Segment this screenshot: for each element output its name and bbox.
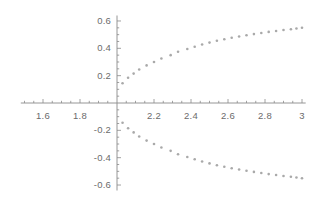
data-point (177, 153, 180, 156)
data-point (160, 146, 163, 149)
data-point (295, 27, 298, 30)
x-axis-tick-label: 2.6 (221, 111, 235, 121)
data-point (145, 64, 148, 67)
y-axis-tick-label: -0.6 (94, 180, 111, 190)
axes-group (21, 16, 306, 191)
data-point (193, 158, 196, 161)
data-point (301, 27, 304, 30)
data-point (208, 162, 211, 165)
data-point (138, 135, 141, 138)
data-point (153, 61, 156, 64)
scatter-plot-figure: 1.61.82.22.42.62.83-0.6-0.4-0.20.20.40.6 (0, 0, 319, 211)
data-point (253, 33, 256, 36)
data-point (267, 31, 270, 34)
data-point (245, 34, 248, 37)
y-axis-tick-label: 0.4 (97, 44, 111, 54)
data-point (230, 36, 233, 39)
y-axis-tick-label: 0.2 (97, 71, 111, 81)
data-point (238, 168, 241, 171)
data-point (238, 35, 241, 38)
x-axis-tick-label: 2.8 (258, 111, 272, 121)
plot-canvas (0, 0, 319, 211)
data-point (201, 160, 204, 163)
data-point (253, 171, 256, 174)
data-point (186, 156, 189, 159)
data-point (230, 167, 233, 170)
data-point (127, 127, 130, 130)
data-point (153, 143, 156, 146)
data-point (121, 82, 124, 85)
data-point (275, 174, 278, 177)
data-point (201, 43, 204, 46)
x-axis-tick-label: 3 (299, 111, 304, 121)
data-point (295, 176, 298, 179)
data-point (208, 41, 211, 44)
data-point (267, 173, 270, 176)
x-axis-tick-label: 2.2 (147, 111, 161, 121)
data-point (169, 54, 172, 57)
data-point (160, 57, 163, 60)
x-axis-tick-label: 1.8 (73, 111, 87, 121)
data-point (223, 165, 226, 168)
y-axis-tick-label: -0.2 (94, 126, 111, 136)
data-point (127, 76, 130, 79)
data-point (186, 48, 189, 51)
y-axis-tick-label: -0.4 (94, 153, 111, 163)
x-axis-tick-label: 1.6 (36, 111, 50, 121)
data-point (193, 45, 196, 48)
data-point (216, 40, 219, 43)
data-point (145, 139, 148, 142)
data-point (275, 30, 278, 33)
data-point (260, 32, 263, 35)
data-point (290, 28, 293, 31)
data-point (260, 172, 263, 175)
y-axis-tick-label: 0.6 (97, 16, 111, 26)
data-point (132, 72, 135, 75)
data-point (282, 29, 285, 32)
data-point (177, 50, 180, 53)
data-point (301, 177, 304, 180)
data-point (216, 164, 219, 167)
data-point (121, 122, 124, 125)
data-point (138, 68, 141, 71)
data-point (290, 176, 293, 179)
data-point (245, 170, 248, 173)
data-point (282, 175, 285, 178)
data-point (223, 38, 226, 41)
data-point (169, 150, 172, 153)
x-axis-tick-label: 2.4 (184, 111, 198, 121)
data-point (132, 131, 135, 134)
